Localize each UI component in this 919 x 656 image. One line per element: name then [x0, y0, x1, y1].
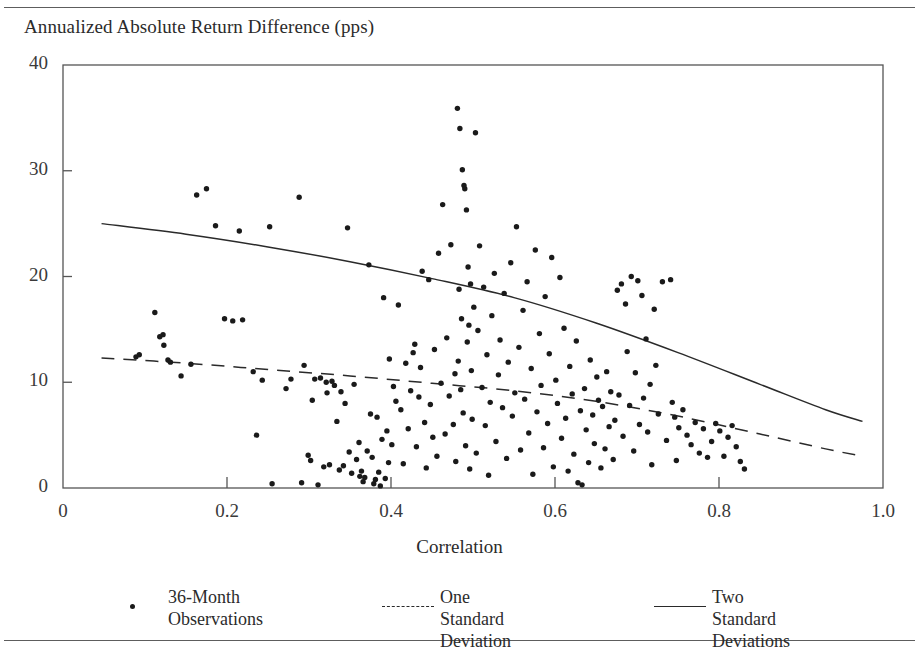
y-tick-label: 20	[8, 264, 48, 286]
x-tick-label: 0.8	[689, 500, 749, 522]
legend-label-observations: 36-Month Observations	[168, 586, 263, 630]
y-tick-label: 30	[8, 158, 48, 180]
x-tick-label: 1.0	[853, 500, 913, 522]
y-tick-label: 0	[8, 475, 48, 497]
y-tick-label: 10	[8, 369, 48, 391]
figure-container: Annualized Absolute Return Difference (p…	[0, 0, 919, 656]
y-tick-label: 40	[8, 52, 48, 74]
chart-legend: 36-Month Observations One Standard Devia…	[110, 590, 910, 646]
axes-frame	[63, 65, 883, 488]
x-tick-label: 0.6	[525, 500, 585, 522]
series-one-standard-deviation	[102, 358, 863, 456]
tick-marks	[63, 171, 719, 488]
series-two-standard-deviations	[102, 224, 863, 422]
x-axis-title: Correlation	[0, 536, 919, 558]
series-36-month-observations	[133, 106, 747, 489]
dot-marker-icon	[110, 600, 160, 612]
legend-label-one-sd: One Standard Deviation	[440, 586, 511, 652]
x-tick-label: 0.4	[361, 500, 421, 522]
legend-label-two-sd: Two Standard Deviations	[712, 586, 790, 652]
dashed-line-marker-icon	[382, 600, 432, 612]
x-tick-label: 0	[33, 500, 93, 522]
solid-line-marker-icon	[654, 600, 704, 612]
x-tick-label: 0.2	[197, 500, 257, 522]
